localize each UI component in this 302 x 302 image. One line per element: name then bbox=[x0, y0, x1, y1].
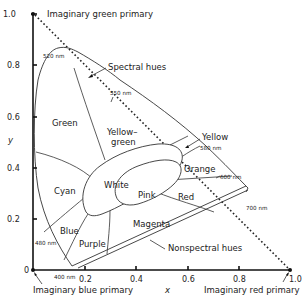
green-primary-label: Imaginary green primary bbox=[47, 9, 153, 19]
region-label-magenta: Magenta bbox=[133, 219, 170, 229]
region-label-blue: Blue bbox=[60, 226, 79, 236]
red-primary-point bbox=[288, 268, 292, 272]
wavelength-550: 550 nm bbox=[110, 90, 131, 96]
wavelength-400: 400 nm bbox=[54, 274, 75, 280]
spectral-hues-label: Spectral hues bbox=[108, 62, 167, 72]
wavelength-480: 480 nm bbox=[35, 240, 56, 246]
y-tick-0.6: 0.6 bbox=[7, 113, 20, 122]
spectral-hues-arrow bbox=[91, 68, 106, 76]
y-ticks bbox=[31, 14, 37, 219]
x-tick-0.2: 0.2 bbox=[79, 275, 92, 284]
y-axis-label: y bbox=[7, 135, 14, 145]
region-label-green: Green bbox=[52, 118, 78, 128]
x-tick-1.0: 1.0 bbox=[289, 275, 302, 284]
region-label-white: White bbox=[104, 180, 129, 190]
boundary-blue-purple bbox=[64, 214, 88, 260]
green-primary-point bbox=[31, 12, 35, 16]
x-tick-0.4: 0.4 bbox=[130, 275, 143, 284]
region-label-cyan: Cyan bbox=[54, 186, 76, 196]
y-tick-0: 0 bbox=[24, 266, 29, 275]
x-axis-label: x bbox=[164, 285, 171, 295]
y-tick-0.8: 0.8 bbox=[7, 61, 20, 70]
blue-arrowhead-icon bbox=[34, 272, 37, 276]
region-label-pink: Pink bbox=[138, 190, 156, 200]
region-label-yellow: Yellow bbox=[201, 132, 228, 142]
yellow-pointer bbox=[187, 139, 200, 147]
boundary-green-yellowgreen bbox=[74, 68, 105, 160]
wavelength-520: 520 nm bbox=[43, 53, 64, 59]
x-tick-0.6: 0.6 bbox=[182, 275, 195, 284]
region-label-red: Red bbox=[178, 192, 194, 202]
region-label-yellow-green-1: Yellow– bbox=[106, 127, 137, 137]
blue-primary-arrow bbox=[35, 274, 42, 284]
tick-550 bbox=[111, 97, 113, 102]
boundary-green-cyan bbox=[36, 152, 94, 180]
y-tick-1.0: 1.0 bbox=[3, 10, 16, 19]
wavelength-700: 700 nm bbox=[246, 205, 267, 211]
region-label-purple: Purple bbox=[79, 239, 106, 249]
region-label-yellow-green-2: green bbox=[111, 137, 136, 147]
wavelength-580: 580 nm bbox=[200, 145, 221, 151]
nonspectral-hues-label: Nonspectral hues bbox=[168, 243, 243, 253]
nonspectral-hues-leader bbox=[150, 240, 165, 249]
region-label-orange: Orange bbox=[184, 164, 215, 174]
blue-primary-point bbox=[31, 268, 35, 272]
wavelength-600: 600 nm bbox=[220, 174, 241, 180]
boundary-purple-magenta bbox=[107, 210, 110, 254]
spectral-arrowhead-icon bbox=[88, 74, 93, 78]
red-primary-label: Imaginary red primary bbox=[204, 285, 299, 295]
y-tick-0.2: 0.2 bbox=[7, 215, 20, 224]
chromaticity-diagram: 1.0 0.8 0.6 0.4 0.2 0 0.2 0.4 0.6 0.8 1.… bbox=[0, 0, 302, 302]
y-tick-0.4: 0.4 bbox=[7, 164, 20, 173]
yellow-arrowhead-icon bbox=[185, 145, 189, 148]
blue-primary-label: Imaginary blue primary bbox=[33, 285, 133, 295]
x-tick-0.8: 0.8 bbox=[233, 275, 246, 284]
